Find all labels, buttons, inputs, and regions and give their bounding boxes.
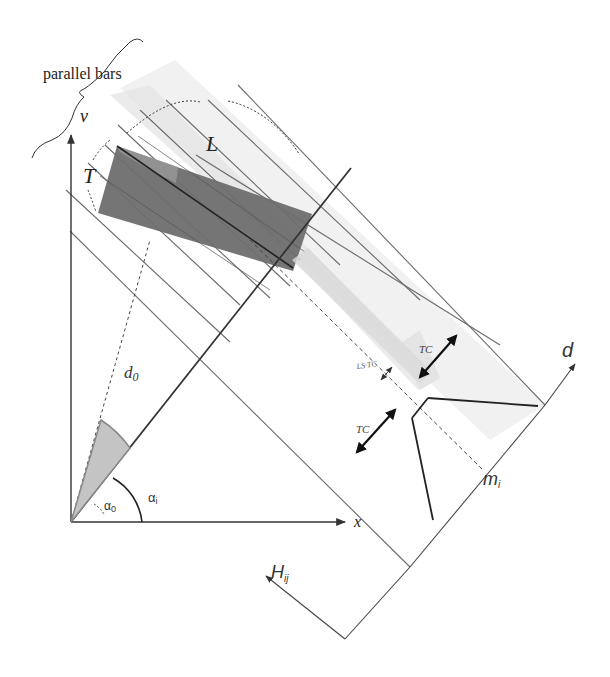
alpha0-label: α0: [104, 499, 116, 514]
d0-label: d0: [124, 363, 139, 384]
alpha0-arc: [94, 504, 104, 514]
v-axis-label: v: [80, 106, 88, 126]
tc-upper-label: TC: [419, 343, 433, 355]
alpha-i-arc: [113, 478, 142, 522]
hij-label: Hij: [271, 562, 289, 584]
L-label: L: [205, 131, 218, 156]
x-axis-label: x: [353, 513, 361, 530]
T-label: T: [83, 163, 97, 188]
mi-label: mi: [483, 469, 501, 490]
alpha0-wedge: [71, 420, 130, 522]
parallel-bars-label: parallel bars: [43, 65, 122, 83]
tc-lower-label: TC: [356, 423, 370, 435]
d-axis-label: d: [562, 339, 574, 361]
diagram-canvas: parallel bars v x L T d0 α0 αi d mi Hij …: [0, 0, 610, 677]
center-width-label: LS·TC: [355, 359, 378, 371]
shaded-band: [110, 60, 545, 440]
hough-projection-diagram: parallel bars v x L T d0 α0 αi d mi Hij …: [0, 0, 610, 677]
alphai-label: αi: [148, 490, 158, 506]
